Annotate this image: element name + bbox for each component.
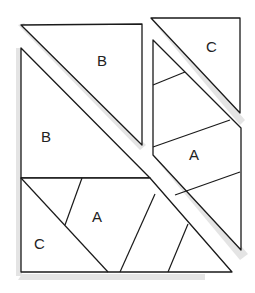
label-top-left: B [97,52,107,69]
label-bottom-middle: A [92,208,102,225]
label-right: A [189,146,199,163]
label-top-right: C [206,38,217,55]
label-left: B [41,128,51,145]
quilt-diagram: B B C A C A [0,0,255,293]
label-bottom-left: C [34,235,45,252]
